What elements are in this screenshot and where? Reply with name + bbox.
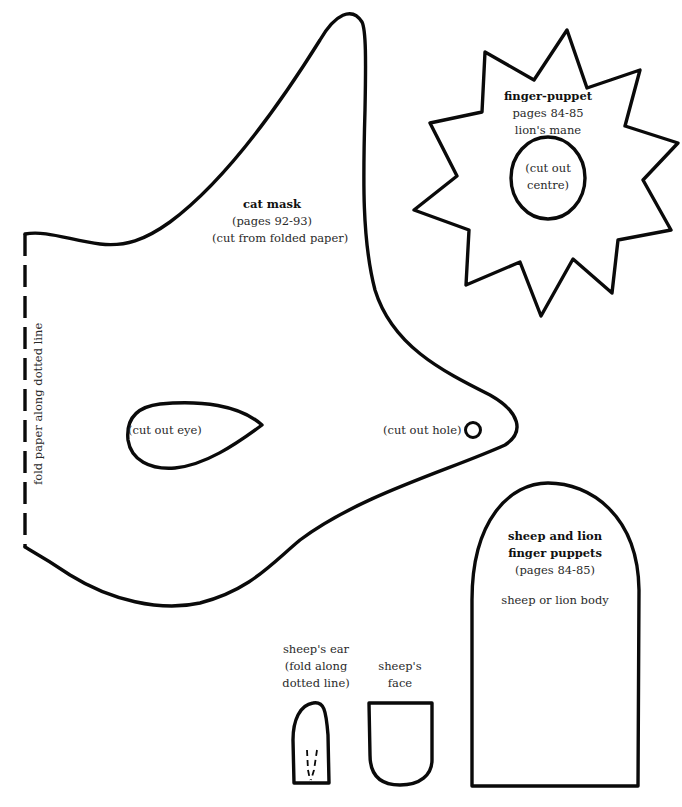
sheep-face-label: sheep's face — [370, 658, 430, 692]
lion-mane-centre-label: (cut out centre) — [510, 160, 586, 194]
cat-mask-pages: (pages 92-93) — [212, 213, 332, 230]
puppet-body-title-2: finger puppets — [495, 545, 615, 562]
cat-mask-title: cat mask — [212, 196, 332, 213]
sheep-face-line1: sheep's — [370, 658, 430, 675]
cat-hole-cutout — [466, 423, 481, 438]
cat-mask-label: cat mask (pages 92-93) (cut from folded … — [212, 196, 332, 247]
cat-hole-label: (cut out hole) — [383, 422, 462, 439]
sheep-ear-label: sheep's ear (fold along dotted line) — [276, 641, 356, 692]
cat-mask-instruction: (cut from folded paper) — [212, 230, 332, 247]
lion-mane-centre-line2: centre) — [510, 177, 586, 194]
sheep-ear-line1: sheep's ear — [276, 641, 356, 658]
sheep-ear-fold-line-2 — [311, 750, 317, 780]
lion-mane-label: finger-puppet pages 84-85 lion's mane — [498, 88, 598, 139]
sheep-ear-line3: dotted line) — [276, 675, 356, 692]
lion-mane-subtitle: lion's mane — [498, 122, 598, 139]
sheep-face-line2: face — [370, 675, 430, 692]
fold-instruction: fold paper along dotted line — [31, 323, 45, 485]
sheep-ear-line2: (fold along — [276, 658, 356, 675]
cat-mask-outline — [25, 14, 517, 606]
puppet-body-pages: (pages 84-85) — [495, 562, 615, 579]
cat-eye-label: (cut out eye) — [128, 422, 202, 439]
lion-mane-title: finger-puppet — [498, 88, 598, 105]
puppet-body-description: sheep or lion body — [495, 592, 615, 609]
puppet-body-title-1: sheep and lion — [495, 528, 615, 545]
sheep-ear-fold-line — [307, 750, 310, 780]
lion-mane-pages: pages 84-85 — [498, 105, 598, 122]
puppet-body-label: sheep and lion finger puppets (pages 84-… — [495, 528, 615, 579]
sheep-ear-outline — [293, 703, 329, 783]
lion-mane-centre-line1: (cut out — [510, 160, 586, 177]
sheep-face-outline — [369, 703, 432, 785]
